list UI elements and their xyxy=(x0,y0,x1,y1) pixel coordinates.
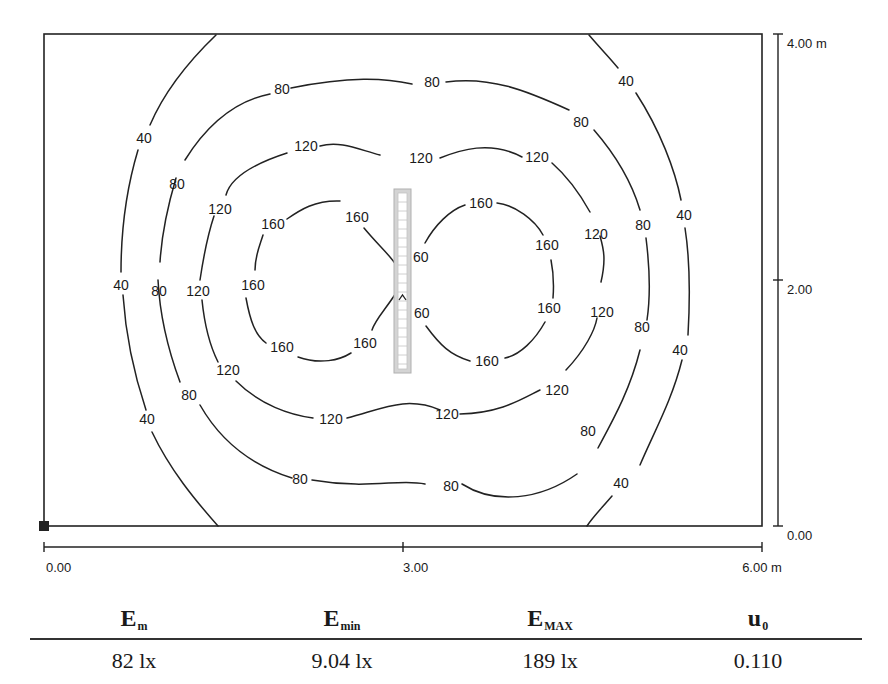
iso-label-80: 80 xyxy=(573,114,589,130)
iso-label-120: 120 xyxy=(294,138,318,154)
iso-label-160: 160 xyxy=(270,339,294,355)
iso-label-40: 40 xyxy=(613,475,629,491)
header-e-mean: Em xyxy=(34,605,234,634)
iso-label-80: 80 xyxy=(274,81,290,97)
summary-header-row: Em Emin EMAX u0 xyxy=(30,594,862,638)
value-e-max: 189 lx xyxy=(450,648,650,674)
iso-label-160: 160 xyxy=(345,209,369,225)
header-e-max: EMAX xyxy=(450,605,650,634)
iso-label-80: 80 xyxy=(181,387,197,403)
iso-label-160: 160 xyxy=(469,195,493,211)
summary-values-row: 82 lx 9.04 lx 189 lx 0.110 xyxy=(30,640,862,682)
x-tick-max: 6.00 m xyxy=(742,560,782,575)
iso-label-120: 120 xyxy=(208,201,232,217)
x-ruler xyxy=(44,542,762,552)
iso-label-80: 80 xyxy=(169,176,185,192)
x-tick-min: 0.00 xyxy=(46,560,71,575)
y-tick-max: 4.00 m xyxy=(787,36,827,51)
iso-label-40: 40 xyxy=(618,73,634,89)
isoline-40-right xyxy=(587,35,689,526)
x-tick-mid: 3.00 xyxy=(403,560,428,575)
y-tick-min: 0.00 xyxy=(787,528,812,543)
value-e-min: 9.04 lx xyxy=(242,648,442,674)
y-ruler xyxy=(773,34,783,526)
iso-label-120: 120 xyxy=(216,362,240,378)
header-subscript: 0 xyxy=(762,619,768,633)
iso-label-120: 120 xyxy=(319,411,343,427)
iso-label-160-overlap: 60 xyxy=(413,249,429,265)
iso-label-120: 120 xyxy=(584,226,608,242)
y-tick-mid: 2.00 xyxy=(787,282,812,297)
iso-label-160: 160 xyxy=(537,300,561,316)
value-e-mean: 82 lx xyxy=(34,648,234,674)
iso-label-80: 80 xyxy=(580,423,596,439)
iso-label-160: 160 xyxy=(475,353,499,369)
iso-label-160: 160 xyxy=(535,237,559,253)
iso-label-160: 160 xyxy=(353,335,377,351)
iso-label-160: 160 xyxy=(261,216,285,232)
header-uniformity: u0 xyxy=(658,605,858,634)
iso-label-120: 120 xyxy=(590,304,614,320)
iso-label-120: 120 xyxy=(545,382,569,398)
isoline-40-left xyxy=(121,35,218,526)
value-uniformity: 0.110 xyxy=(658,648,858,674)
iso-label-80: 80 xyxy=(635,217,651,233)
iso-label-40: 40 xyxy=(676,207,692,223)
isoline-160-right xyxy=(425,203,554,361)
iso-label-120: 120 xyxy=(525,149,549,165)
iso-label-80: 80 xyxy=(292,471,308,487)
iso-label-80: 80 xyxy=(634,319,650,335)
iso-label-80: 80 xyxy=(443,478,459,494)
iso-label-40: 40 xyxy=(113,277,129,293)
header-symbol: E xyxy=(120,605,136,631)
iso-label-160: 160 xyxy=(241,277,265,293)
header-subscript: min xyxy=(341,619,361,633)
iso-label-40: 40 xyxy=(136,130,152,146)
isolux-plot: 4.00 m 2.00 0.00 0.00 3.00 6.00 m 40 40 … xyxy=(0,0,888,590)
header-e-min: Emin xyxy=(242,605,442,634)
header-symbol: E xyxy=(323,605,339,631)
iso-label-40: 40 xyxy=(139,411,155,427)
iso-label-40: 40 xyxy=(672,342,688,358)
header-symbol: E xyxy=(527,605,543,631)
header-symbol: u xyxy=(748,605,761,631)
luminaire xyxy=(394,189,411,373)
iso-label-120: 120 xyxy=(186,283,210,299)
origin-marker xyxy=(39,521,49,531)
illuminance-summary-table: Em Emin EMAX u0 82 lx 9.04 lx 189 lx 0.1… xyxy=(30,594,862,682)
iso-label-80: 80 xyxy=(151,283,167,299)
iso-label-120: 120 xyxy=(409,150,433,166)
header-subscript: MAX xyxy=(544,619,573,633)
iso-label-160-overlap: 60 xyxy=(414,305,430,321)
iso-label-120: 120 xyxy=(435,406,459,422)
header-subscript: m xyxy=(138,619,148,633)
iso-label-80: 80 xyxy=(424,74,440,90)
